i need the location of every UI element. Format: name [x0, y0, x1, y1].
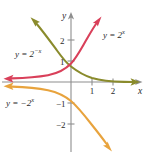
- axis-names-group: y x: [61, 11, 143, 96]
- curve-label-2-to-the-minus-x: y = 2−x: [14, 47, 41, 59]
- x-tick-label-1: 1: [90, 86, 95, 96]
- curve-label-negative-2-to-the-x: y = −2x: [5, 96, 34, 108]
- graph-canvas: 2 1 −1 −2 1 2 y x y = 2x y = 2−x y = −2x: [0, 0, 147, 154]
- curve-label-red-base: y = 2: [102, 30, 123, 40]
- y-tick-label-2: 2: [60, 36, 65, 46]
- orange-arrowhead-lower-right: [103, 142, 112, 152]
- y-tick-label-1: 1: [60, 57, 65, 67]
- curve-label-red-exponent: x: [121, 28, 125, 35]
- curve-label-orange-exponent: x: [30, 96, 34, 103]
- curve-y-equals-negative-2-to-the-x: [4, 82, 113, 151]
- y-tick-label-neg1: −1: [56, 99, 66, 109]
- exponential-functions-graph: 2 1 −1 −2 1 2 y x y = 2x y = 2−x y = −2x: [0, 0, 147, 154]
- curve-label-olive-exponent: −x: [34, 47, 41, 54]
- y-axis-label: y: [61, 11, 67, 21]
- curve-label-olive-base: y = 2: [14, 49, 35, 59]
- x-axis-label: x: [137, 86, 143, 96]
- x-tick-label-2: 2: [111, 86, 116, 96]
- curve-label-2-to-the-x: y = 2x: [102, 28, 125, 40]
- y-tick-label-neg2: −2: [56, 120, 66, 130]
- curve-label-orange-base: y = −2: [5, 98, 32, 108]
